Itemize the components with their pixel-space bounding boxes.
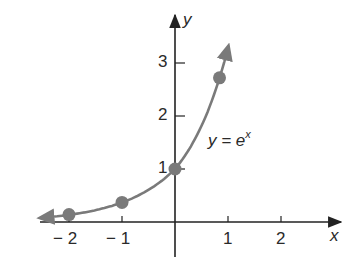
data-point [63, 208, 76, 221]
y-tick-label: 3 [158, 53, 167, 70]
data-point [116, 196, 129, 209]
function-label: y = ex [208, 128, 251, 151]
x-tick-label: − 1 [106, 230, 130, 247]
x-tick-label: 1 [223, 230, 232, 247]
x-axis-label: x [330, 227, 339, 244]
data-point [213, 71, 226, 84]
data-points [63, 71, 227, 221]
y-ticks [175, 63, 185, 169]
equation-exponent: x [245, 128, 251, 140]
y-axis-label: y [183, 11, 192, 28]
data-point [169, 163, 182, 176]
y-tick-label: 1 [158, 159, 167, 176]
y-tick-label: 2 [158, 106, 167, 123]
equation-main: y = e [208, 131, 245, 150]
x-tick-label: − 2 [53, 230, 77, 247]
chart-canvas [0, 0, 361, 265]
exp-curve [40, 46, 229, 218]
x-tick-label: 2 [276, 230, 285, 247]
